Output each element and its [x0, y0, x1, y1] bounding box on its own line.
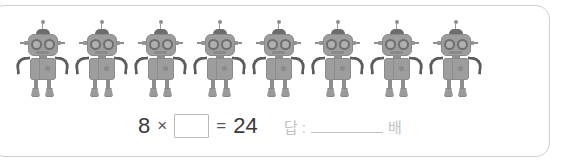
robot-chest-knob-icon — [281, 66, 286, 71]
robot-ear-nub-left-icon — [197, 42, 201, 44]
robot-mouth-icon — [331, 51, 344, 54]
robot-illustration-row — [13, 19, 529, 101]
multiplication-operator: × — [157, 116, 167, 136]
multiplication-equation: 8 × = 24 — [138, 113, 258, 139]
robot-chest-knob-icon — [399, 66, 404, 71]
robot-ear-nub-right-icon — [356, 42, 360, 44]
robot-eye-left-icon — [267, 39, 278, 50]
robot-arm-right-icon — [53, 56, 70, 74]
equation-left-operand: 8 — [138, 113, 150, 139]
robot-icon — [308, 19, 367, 101]
equation-blank-input[interactable] — [174, 114, 209, 138]
robot-chest-line-icon — [157, 59, 158, 79]
robot-chest-knob-icon — [45, 66, 50, 71]
robot-mouth-icon — [36, 51, 49, 54]
robot-chest-line-icon — [39, 59, 40, 79]
robot-arm-right-icon — [466, 56, 483, 74]
robot-icon — [131, 19, 190, 101]
equation-row: 8 × = 24 답 : 배 — [0, 106, 549, 146]
robot-ear-nub-left-icon — [138, 42, 142, 44]
robot-body-icon — [89, 58, 115, 80]
robot-head-icon — [441, 34, 471, 56]
robot-mouth-icon — [272, 51, 285, 54]
robot-ear-nub-right-icon — [474, 42, 478, 44]
robot-head-icon — [323, 34, 353, 56]
robot-eye-right-icon — [162, 39, 173, 50]
answer-label: 답 : — [284, 116, 306, 137]
robot-chest-line-icon — [216, 59, 217, 79]
robot-ear-nub-right-icon — [415, 42, 419, 44]
answer-line: 답 : 배 — [284, 116, 402, 137]
robot-body-icon — [148, 58, 174, 80]
robot-eye-right-icon — [339, 39, 350, 50]
robot-head-icon — [205, 34, 235, 56]
robot-chest-knob-icon — [340, 66, 345, 71]
robot-ear-nub-left-icon — [256, 42, 260, 44]
equals-sign: = — [216, 116, 226, 136]
worksheet-card: 8 × = 24 답 : 배 — [0, 5, 550, 157]
robot-chest-knob-icon — [104, 66, 109, 71]
robot-chest-line-icon — [334, 59, 335, 79]
robot-head-icon — [264, 34, 294, 56]
robot-head-icon — [382, 34, 412, 56]
robot-chest-knob-icon — [458, 66, 463, 71]
robot-ear-nub-right-icon — [238, 42, 242, 44]
robot-ear-nub-left-icon — [79, 42, 83, 44]
robot-eye-right-icon — [457, 39, 468, 50]
robot-eye-left-icon — [326, 39, 337, 50]
robot-body-icon — [384, 58, 410, 80]
robot-foot-left-icon — [267, 88, 276, 97]
robot-arm-right-icon — [348, 56, 365, 74]
robot-icon — [72, 19, 131, 101]
robot-arm-right-icon — [289, 56, 306, 74]
robot-eye-left-icon — [149, 39, 160, 50]
robot-ear-nub-left-icon — [374, 42, 378, 44]
robot-foot-left-icon — [149, 88, 158, 97]
robot-eye-right-icon — [44, 39, 55, 50]
robot-icon — [249, 19, 308, 101]
robot-body-icon — [443, 58, 469, 80]
robot-head-icon — [28, 34, 58, 56]
robot-eye-right-icon — [221, 39, 232, 50]
robot-mouth-icon — [154, 51, 167, 54]
robot-foot-left-icon — [444, 88, 453, 97]
robot-eye-right-icon — [103, 39, 114, 50]
robot-icon — [426, 19, 485, 101]
robot-mouth-icon — [390, 51, 403, 54]
robot-eye-left-icon — [208, 39, 219, 50]
robot-chest-line-icon — [452, 59, 453, 79]
robot-head-icon — [146, 34, 176, 56]
robot-eye-left-icon — [31, 39, 42, 50]
robot-arm-right-icon — [230, 56, 247, 74]
robot-icon — [13, 19, 72, 101]
robot-chest-line-icon — [98, 59, 99, 79]
robot-body-icon — [325, 58, 351, 80]
robot-mouth-icon — [213, 51, 226, 54]
robot-mouth-icon — [449, 51, 462, 54]
robot-mouth-icon — [95, 51, 108, 54]
robot-arm-right-icon — [171, 56, 188, 74]
robot-arm-right-icon — [112, 56, 129, 74]
robot-body-icon — [30, 58, 56, 80]
equation-result: 24 — [233, 113, 257, 139]
answer-blank-input[interactable] — [311, 119, 383, 133]
robot-ear-nub-right-icon — [297, 42, 301, 44]
robot-ear-nub-left-icon — [20, 42, 24, 44]
robot-foot-left-icon — [90, 88, 99, 97]
robot-ear-nub-left-icon — [433, 42, 437, 44]
robot-chest-knob-icon — [222, 66, 227, 71]
robot-foot-left-icon — [31, 88, 40, 97]
robot-chest-knob-icon — [163, 66, 168, 71]
robot-ear-nub-right-icon — [179, 42, 183, 44]
robot-eye-right-icon — [398, 39, 409, 50]
robot-chest-line-icon — [393, 59, 394, 79]
robot-foot-left-icon — [385, 88, 394, 97]
robot-icon — [190, 19, 249, 101]
robot-ear-nub-right-icon — [61, 42, 65, 44]
robot-ear-nub-right-icon — [120, 42, 124, 44]
robot-body-icon — [266, 58, 292, 80]
robot-arm-right-icon — [407, 56, 424, 74]
robot-eye-right-icon — [280, 39, 291, 50]
answer-unit: 배 — [388, 116, 402, 137]
robot-foot-left-icon — [208, 88, 217, 97]
